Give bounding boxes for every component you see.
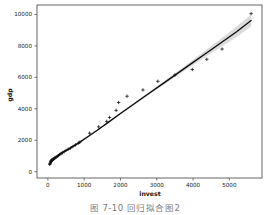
plot-background [0,0,270,200]
y-tick-label: 8000 [18,43,33,49]
y-tick-label: 6000 [18,74,33,80]
y-axis-title: gdp [6,88,14,102]
x-tick-label: 2000 [113,182,128,188]
y-tick-label: 4000 [18,106,33,112]
x-tick-label: 5000 [222,182,237,188]
y-tick-label: 2000 [18,137,33,143]
y-tick-label: 0 [28,169,32,175]
x-tick-label: 3000 [150,182,165,188]
x-tick-label: 0 [46,182,50,188]
regression-figure: 010002000300040005000 020004000600080001… [0,0,270,215]
y-tick-label: 10000 [14,11,32,17]
x-tick-label: 1000 [77,182,92,188]
scatter-plot: 010002000300040005000 020004000600080001… [0,0,270,200]
x-axis-title: invest [139,190,160,197]
figure-caption: 图 7-10 回归拟合图2 [0,201,270,215]
x-tick-label: 4000 [186,182,201,188]
